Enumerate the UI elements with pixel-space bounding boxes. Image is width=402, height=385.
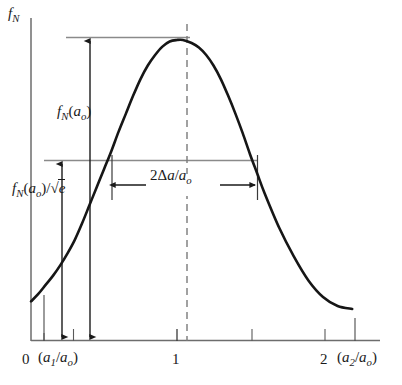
x-tick-label-a2: (a2/ao) xyxy=(337,350,377,368)
x-tick-label-two: 2 xyxy=(320,352,328,367)
peak-amplitude-label: fN(ao) xyxy=(57,104,91,122)
y-axis-label: fN xyxy=(8,6,19,24)
half-amplitude-label: fN(ao)/√e xyxy=(12,181,65,199)
x-tick-label-zero: 0 xyxy=(22,352,30,367)
width-label: 2Δa/ao xyxy=(150,168,192,186)
x-tick-label-one: 1 xyxy=(172,352,180,367)
figure-container: fN fN(ao) fN(ao)/√e 2Δa/ao 0 (a1/ao) 1 2… xyxy=(0,0,402,385)
x-tick-label-a1: (a1/ao) xyxy=(38,350,78,368)
